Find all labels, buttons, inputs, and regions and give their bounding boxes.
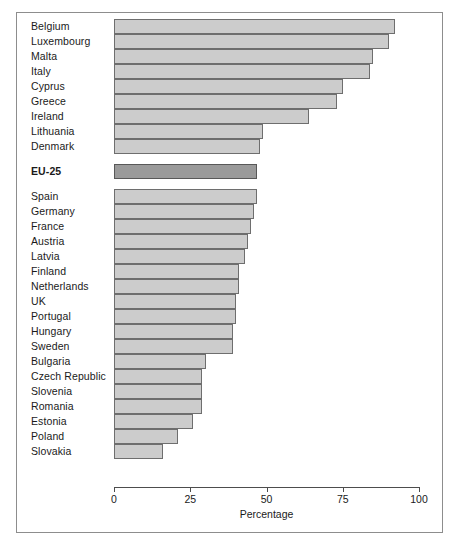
x-axis-tick-label: 75 bbox=[337, 493, 349, 505]
bar bbox=[114, 19, 395, 34]
bar-row: Austria bbox=[17, 234, 442, 249]
x-axis-tick bbox=[114, 487, 115, 492]
bar-category-label: Belgium bbox=[31, 19, 109, 34]
bar bbox=[114, 369, 202, 384]
x-axis-title: Percentage bbox=[114, 508, 419, 520]
bar-category-label: Slovakia bbox=[31, 444, 109, 459]
bar-category-label: Czech Republic bbox=[31, 369, 109, 384]
bar bbox=[114, 339, 233, 354]
bar-category-label: Netherlands bbox=[31, 279, 109, 294]
bar-category-label: Luxembourg bbox=[31, 34, 109, 49]
bar-row: Denmark bbox=[17, 139, 442, 154]
bar-category-label: Latvia bbox=[31, 249, 109, 264]
bar-category-label: Slovenia bbox=[31, 384, 109, 399]
x-axis-tick bbox=[190, 487, 191, 492]
bar-row: Lithuania bbox=[17, 124, 442, 139]
bar-row: Malta bbox=[17, 49, 442, 64]
bar-category-label: Bulgaria bbox=[31, 354, 109, 369]
bar-category-label: Romania bbox=[31, 399, 109, 414]
bar-category-label: Spain bbox=[31, 189, 109, 204]
bar-category-label: EU-25 bbox=[31, 164, 109, 179]
bar-category-label: Finland bbox=[31, 264, 109, 279]
bar-category-label: Denmark bbox=[31, 139, 109, 154]
bar bbox=[114, 219, 251, 234]
bar bbox=[114, 124, 263, 139]
bar-category-label: Hungary bbox=[31, 324, 109, 339]
bar-row: Italy bbox=[17, 64, 442, 79]
bar bbox=[114, 49, 373, 64]
bar bbox=[114, 94, 337, 109]
bar-category-label: France bbox=[31, 219, 109, 234]
bar-row: Belgium bbox=[17, 19, 442, 34]
bar bbox=[114, 279, 239, 294]
bar-row: Bulgaria bbox=[17, 354, 442, 369]
bar bbox=[114, 204, 254, 219]
x-axis-tick-label: 100 bbox=[410, 493, 428, 505]
bar-row: Germany bbox=[17, 204, 442, 219]
bar-row: Finland bbox=[17, 264, 442, 279]
bar bbox=[114, 414, 193, 429]
bar-category-label: Germany bbox=[31, 204, 109, 219]
bar-row: EU-25 bbox=[17, 164, 442, 179]
bar-category-label: Malta bbox=[31, 49, 109, 64]
bar bbox=[114, 429, 178, 444]
bar bbox=[114, 249, 245, 264]
chart-frame: BelgiumLuxembourgMaltaItalyCyprusGreeceI… bbox=[16, 12, 443, 533]
bar-row: Luxembourg bbox=[17, 34, 442, 49]
x-axis-tick-label: 25 bbox=[184, 493, 196, 505]
bar-category-label: UK bbox=[31, 294, 109, 309]
bar bbox=[114, 399, 202, 414]
bar-category-label: Sweden bbox=[31, 339, 109, 354]
bar-chart-plot-area: BelgiumLuxembourgMaltaItalyCyprusGreeceI… bbox=[17, 13, 442, 532]
bar-row: Cyprus bbox=[17, 79, 442, 94]
bar bbox=[114, 309, 236, 324]
x-axis-tick bbox=[343, 487, 344, 492]
bar bbox=[114, 34, 389, 49]
bar bbox=[114, 384, 202, 399]
bar bbox=[114, 164, 257, 179]
bar-category-label: Estonia bbox=[31, 414, 109, 429]
bar-row: Romania bbox=[17, 399, 442, 414]
bar bbox=[114, 444, 163, 459]
bar-row: Slovenia bbox=[17, 384, 442, 399]
bar bbox=[114, 234, 248, 249]
bar bbox=[114, 139, 260, 154]
bar-category-label: Ireland bbox=[31, 109, 109, 124]
bar-row: UK bbox=[17, 294, 442, 309]
bar-row: Hungary bbox=[17, 324, 442, 339]
bar bbox=[114, 109, 309, 124]
bar-row: Czech Republic bbox=[17, 369, 442, 384]
bar-category-label: Italy bbox=[31, 64, 109, 79]
bar-row: France bbox=[17, 219, 442, 234]
bar-category-label: Greece bbox=[31, 94, 109, 109]
bar-row: Poland bbox=[17, 429, 442, 444]
bar bbox=[114, 64, 370, 79]
bar-row: Netherlands bbox=[17, 279, 442, 294]
bar-row: Estonia bbox=[17, 414, 442, 429]
bar-row: Spain bbox=[17, 189, 442, 204]
bar-category-label: Lithuania bbox=[31, 124, 109, 139]
bar-row: Slovakia bbox=[17, 444, 442, 459]
bar-category-label: Cyprus bbox=[31, 79, 109, 94]
x-axis-tick-label: 0 bbox=[111, 493, 117, 505]
x-axis-tick-label: 50 bbox=[261, 493, 273, 505]
bar bbox=[114, 189, 257, 204]
bar-row: Portugal bbox=[17, 309, 442, 324]
x-axis-tick bbox=[419, 487, 420, 492]
bar-row: Latvia bbox=[17, 249, 442, 264]
bar-category-label: Poland bbox=[31, 429, 109, 444]
bar bbox=[114, 294, 236, 309]
x-axis-tick bbox=[267, 487, 268, 492]
bar-row: Sweden bbox=[17, 339, 442, 354]
bar bbox=[114, 79, 343, 94]
bar bbox=[114, 354, 206, 369]
bar-category-label: Portugal bbox=[31, 309, 109, 324]
bar-category-label: Austria bbox=[31, 234, 109, 249]
bar-row: Greece bbox=[17, 94, 442, 109]
bar bbox=[114, 264, 239, 279]
bar bbox=[114, 324, 233, 339]
bar-row: Ireland bbox=[17, 109, 442, 124]
